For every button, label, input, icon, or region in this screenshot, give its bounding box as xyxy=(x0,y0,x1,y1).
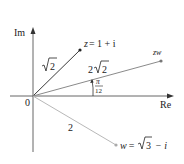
zw-point xyxy=(159,59,162,62)
z-label: z= 1 + i xyxy=(83,38,116,49)
svg-text:2: 2 xyxy=(50,61,55,72)
svg-text:2: 2 xyxy=(88,64,93,75)
svg-text:2: 2 xyxy=(102,64,107,75)
svg-text:3: 3 xyxy=(146,140,151,151)
real-axis-arrow-icon xyxy=(167,94,174,99)
zw-modulus-label: 2 2 xyxy=(88,61,109,75)
angle-label: π 12 xyxy=(95,77,103,95)
w-point xyxy=(114,143,117,146)
imaginary-axis-arrow-icon xyxy=(31,27,36,34)
svg-text:w=: w= xyxy=(120,140,135,151)
zw-label: zw xyxy=(152,48,162,57)
svg-text:π: π xyxy=(96,77,100,86)
svg-text:− i: − i xyxy=(155,140,167,151)
origin-label: 0 xyxy=(25,97,30,108)
w-label: w= 3 − i xyxy=(120,137,167,151)
argand-diagram: Im Re 0 z= 1 + i 2 2 2 zw π 12 2 w= 3 − … xyxy=(0,0,184,164)
real-axis-label: Re xyxy=(160,99,172,110)
w-vector xyxy=(33,96,116,145)
z-modulus-label: 2 xyxy=(42,58,57,72)
imaginary-axis-label: Im xyxy=(14,27,25,38)
w-modulus-label: 2 xyxy=(68,122,73,133)
svg-text:12: 12 xyxy=(95,87,103,95)
z-point xyxy=(78,48,81,51)
